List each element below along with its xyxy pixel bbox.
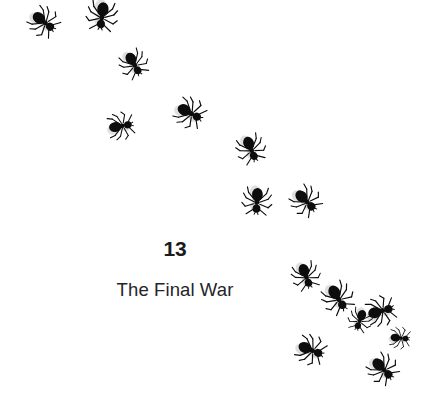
chapter-opening-page: 13 The Final War [0, 0, 422, 405]
chapter-heading: 13 The Final War [0, 238, 350, 300]
ant-icon [100, 105, 143, 148]
page-title: The Final War [0, 281, 350, 300]
ant-icon [236, 180, 279, 223]
ant-icon [225, 123, 276, 174]
chapter-number: 13 [0, 238, 350, 259]
ant-icon [384, 322, 415, 353]
ant-icon [108, 38, 160, 90]
ant-icon [162, 85, 217, 140]
ant-icon [78, 0, 125, 40]
ant-icon [278, 173, 335, 230]
ant-icon [285, 324, 337, 376]
ant-icon [16, 0, 72, 50]
